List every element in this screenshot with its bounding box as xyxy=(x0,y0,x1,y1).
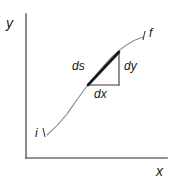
dx-label: dx xyxy=(94,88,107,100)
figure-container: y x f i ds dy dx xyxy=(0,0,174,183)
dy-label: dy xyxy=(124,60,137,72)
curve-path xyxy=(47,37,143,135)
ds-hypotenuse-line xyxy=(88,52,119,85)
x-axis-label: x xyxy=(156,164,163,178)
y-axis-label: y xyxy=(6,16,13,30)
initial-point-tick xyxy=(43,128,45,137)
final-point-label: f xyxy=(149,27,152,39)
ds-label: ds xyxy=(72,60,85,72)
diagram-canvas xyxy=(0,0,174,183)
initial-point-label: i xyxy=(35,127,38,139)
final-point-tick xyxy=(143,31,145,40)
